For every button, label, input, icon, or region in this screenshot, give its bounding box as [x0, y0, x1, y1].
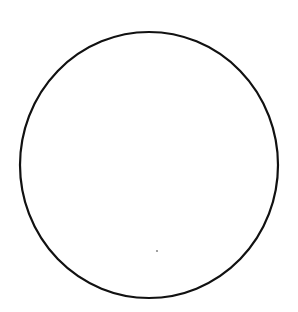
diagram-canvas — [0, 0, 298, 312]
small-dot — [156, 250, 158, 252]
circle-outline — [20, 32, 278, 298]
circle-diagram — [0, 0, 298, 312]
